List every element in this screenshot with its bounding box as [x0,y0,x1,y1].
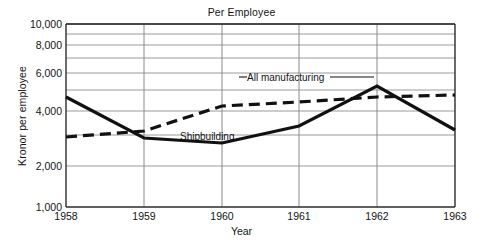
x-tick-label-1962: 1962 [365,210,388,222]
x-tick-label-1958: 1958 [54,210,77,222]
x-tick-label-1963: 1963 [443,210,466,222]
series-annotation-shipbuilding: Shipbuilding [180,131,235,142]
series-shipbuilding [66,86,455,143]
x-tick-label-1959: 1959 [132,210,155,222]
plot-frame [66,24,455,207]
x-tick-label-1960: 1960 [210,210,233,222]
series-annotation-all-manufacturing: All manufacturing [247,72,324,83]
chart-figure: Per Employee Kronor per employee 10,000 … [0,0,483,244]
series-all-manufacturing [66,95,455,137]
gridlines-horizontal [66,24,455,166]
gridlines-vertical [144,24,377,207]
x-tick-label-1961: 1961 [287,210,310,222]
x-axis-title: Year [0,225,483,237]
plot-canvas [0,0,483,244]
